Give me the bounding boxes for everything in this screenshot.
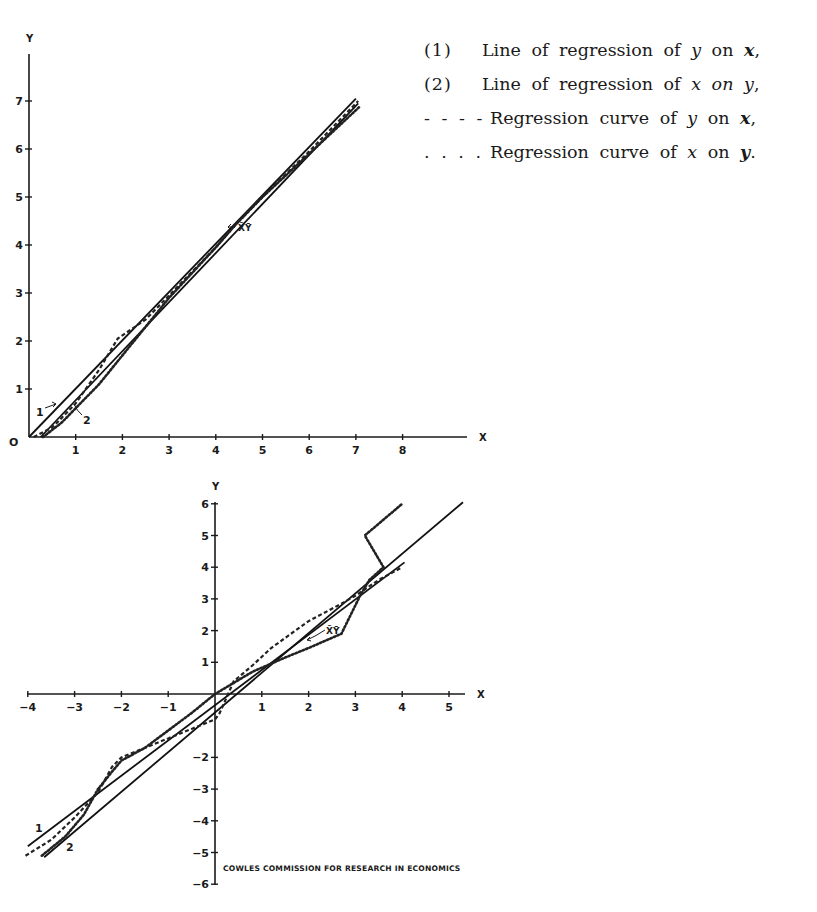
x-tick-label: 4 — [398, 701, 406, 714]
x-tick-label: −2 — [113, 701, 130, 714]
legend-text-3: Regression curve of y on x, — [490, 104, 756, 138]
legend-item-line-yx: (1) Line of regression of y on x, — [424, 36, 817, 70]
y-tick-label: 3 — [15, 287, 23, 300]
x-tick-label: 4 — [212, 444, 220, 457]
legend-item-curve-yx: - - - - Regression curve of y on x, — [424, 104, 817, 138]
x-tick-label: 1 — [258, 701, 266, 714]
y-tick-label: 1 — [15, 383, 23, 396]
y-tick-label: 1 — [201, 656, 209, 669]
y-tick-label: 3 — [201, 593, 209, 606]
x-tick-label: 2 — [305, 701, 313, 714]
x-tick-label: 5 — [259, 444, 267, 457]
x-tick-label: 3 — [165, 444, 173, 457]
x-tick-label: −1 — [160, 701, 177, 714]
legend-key-1: (1) — [424, 36, 482, 70]
y-axis-label: Y — [211, 481, 220, 492]
series-solid-1 — [29, 99, 356, 437]
x-tick-label: 7 — [352, 444, 360, 457]
chart-top-regression: XYO123456781234567X̄Ȳ12 — [9, 33, 487, 457]
legend-key-2: (2) — [424, 70, 482, 104]
legend-item-line-xy: (2) Line of regression of x on y, — [424, 70, 817, 104]
credit-text: COWLES COMMISSION FOR RESEARCH IN ECONOM… — [223, 864, 461, 873]
line-label-1: 1 — [35, 822, 43, 835]
origin-label: O — [9, 436, 18, 449]
mean-point-label: X̄Ȳ — [238, 222, 252, 233]
y-tick-label: −3 — [192, 783, 209, 796]
x-axis-label: X — [479, 432, 487, 443]
y-tick-label: −4 — [192, 815, 209, 828]
x-tick-label: 3 — [352, 701, 360, 714]
y-tick-label: 5 — [15, 191, 23, 204]
x-tick-label: 2 — [119, 444, 127, 457]
mean-point-label: X̄Ȳ — [326, 625, 340, 636]
y-axis-label: Y — [25, 33, 34, 44]
label-arrow-icon — [45, 402, 56, 408]
x-tick-label: 8 — [399, 444, 407, 457]
chart-bottom-regression: XY−4−3−2−112345654321−2−3−4−5−6X̄Ȳ12 — [19, 481, 485, 891]
legend-key-dashed: - - - - — [424, 104, 490, 138]
y-tick-label: −6 — [192, 878, 209, 891]
legend-item-curve-xy: . . . . Regression curve of x on y. — [424, 138, 817, 172]
y-tick-label: 7 — [15, 95, 23, 108]
y-tick-label: 2 — [201, 625, 209, 638]
series-solid-2 — [44, 502, 463, 857]
x-tick-label: −3 — [66, 701, 83, 714]
y-tick-label: −2 — [192, 751, 209, 764]
legend: (1) Line of regression of y on x, (2) Li… — [424, 36, 817, 172]
x-tick-label: 5 — [445, 701, 453, 714]
line-label-2: 2 — [83, 414, 91, 427]
y-tick-label: 6 — [201, 498, 209, 511]
x-axis-label: X — [477, 689, 485, 700]
series-dotted-4 — [42, 504, 402, 856]
y-tick-label: −5 — [192, 847, 209, 860]
legend-key-dotted: . . . . — [424, 138, 490, 172]
y-tick-label: 4 — [201, 561, 209, 574]
line-label-1: 1 — [36, 406, 44, 419]
x-tick-label: 6 — [305, 444, 313, 457]
line-label-2: 2 — [66, 841, 74, 854]
legend-text-4: Regression curve of x on y. — [490, 138, 756, 172]
y-tick-label: 6 — [15, 143, 23, 156]
series-dotted-4 — [43, 106, 361, 437]
legend-text-1: Line of regression of y on x, — [482, 36, 760, 70]
series-solid-1 — [28, 562, 405, 846]
x-tick-label: −4 — [19, 701, 36, 714]
y-tick-label: 5 — [201, 530, 209, 543]
legend-text-2: Line of regression of x on y, — [482, 70, 759, 104]
y-tick-label: 4 — [15, 239, 23, 252]
y-tick-label: 2 — [15, 335, 23, 348]
x-tick-label: 1 — [72, 444, 80, 457]
